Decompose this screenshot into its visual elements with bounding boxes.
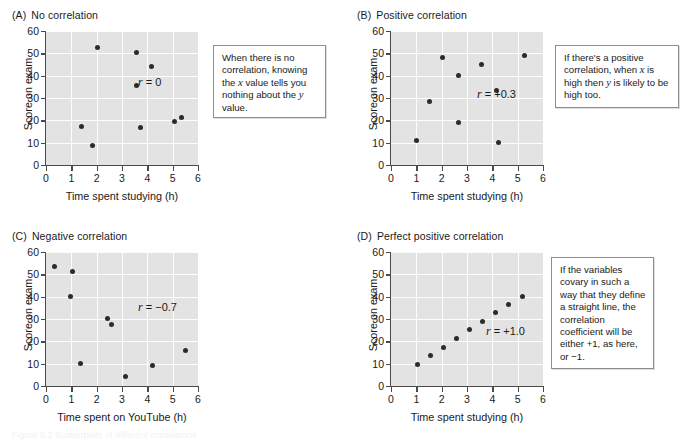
x-axis-tick: [442, 387, 443, 392]
gridline-vertical: [147, 31, 148, 165]
panel-tag-d: (D): [357, 230, 372, 242]
r-annotation-b: r = +0.3: [477, 87, 516, 102]
x-axis-tick: [391, 166, 392, 171]
data-point: [68, 294, 73, 299]
y-axis-tick-label: 20: [344, 336, 384, 347]
data-point: [440, 55, 445, 60]
x-axis-tick: [198, 387, 199, 392]
x-axis-tick-label: 4: [135, 173, 159, 184]
y-axis-tick-label: 40: [344, 292, 384, 303]
x-axis-tick: [71, 387, 72, 392]
data-point: [90, 143, 95, 148]
gridline-vertical: [173, 252, 174, 386]
x-axis-tick: [173, 166, 174, 171]
x-axis-tick: [416, 166, 417, 171]
y-axis-tick: [386, 31, 391, 32]
data-point: [183, 348, 188, 353]
x-axis-tick: [173, 387, 174, 392]
figure-caption: Figure 6.2 Scatterplots of different cor…: [12, 430, 196, 440]
gridline-vertical: [122, 252, 123, 386]
x-axis-tick-label: 6: [531, 394, 555, 405]
y-axis-tick: [386, 98, 391, 99]
gridline-vertical: [467, 31, 468, 165]
x-axis-tick-label: 2: [85, 173, 109, 184]
x-axis-tick-label: 3: [455, 173, 479, 184]
callout-d: If the variables covary in such a way th…: [551, 257, 654, 369]
data-point: [456, 120, 461, 125]
y-axis-tick-label: 0: [344, 160, 384, 171]
panel-perfect-positive-correlation: (D)Perfect positive correlation Score on…: [345, 221, 689, 442]
y-axis-tick-label: 0: [0, 160, 39, 171]
x-axis-tick: [492, 387, 493, 392]
callout-b: If there's a positive correlation, when …: [555, 45, 679, 108]
y-axis-tick: [386, 53, 391, 54]
x-axis-tick-label: 0: [34, 173, 58, 184]
panel-title-a: (A)No correlation: [12, 9, 98, 21]
y-axis-tick-label: 40: [0, 71, 39, 82]
panel-title-c: (C)Negative correlation: [12, 230, 127, 242]
x-axis-tick: [198, 166, 199, 171]
data-point: [78, 361, 83, 366]
gridline-vertical: [416, 31, 417, 165]
panel-tag-a: (A): [12, 9, 26, 21]
x-axis-tick: [467, 166, 468, 171]
data-point: [493, 310, 498, 315]
data-point: [480, 319, 485, 324]
data-point: [95, 45, 100, 50]
x-axis-tick-label: 2: [430, 394, 454, 405]
panel-title-b: (B)Positive correlation: [357, 9, 467, 21]
panel-tag-c: (C): [12, 230, 27, 242]
x-axis-tick-label: 4: [135, 394, 159, 405]
y-axis-tick: [386, 319, 391, 320]
y-axis-tick-label: 0: [344, 381, 384, 392]
x-axis-tick: [442, 166, 443, 171]
gridline-vertical: [492, 252, 493, 386]
scatter-chart-d: Score on exam Time spent studying (h) r …: [391, 252, 543, 386]
x-axis-tick: [46, 387, 47, 392]
x-axis-tick-label: 4: [480, 173, 504, 184]
x-axis-tick-label: 3: [110, 394, 134, 405]
callout-a: When there is no correlation, knowing th…: [213, 45, 326, 118]
y-axis-tick: [41, 319, 46, 320]
x-axis-tick: [147, 166, 148, 171]
y-axis-tick-label: 60: [344, 247, 384, 258]
x-axis-title-b: Time spent studying (h): [351, 190, 583, 202]
y-axis-tick: [386, 297, 391, 298]
y-axis-tick: [41, 76, 46, 77]
x-axis-tick-label: 1: [59, 173, 83, 184]
y-axis-tick: [386, 274, 391, 275]
y-axis-tick-label: 30: [344, 314, 384, 325]
data-point: [441, 345, 446, 350]
y-axis-tick-label: 10: [0, 359, 39, 370]
panel-title-d: (D)Perfect positive correlation: [357, 230, 503, 242]
data-point: [427, 99, 432, 104]
x-axis-tick-label: 0: [379, 394, 403, 405]
y-axis-tick-label: 40: [0, 292, 39, 303]
y-axis-tick: [386, 364, 391, 365]
plot-area-c: [46, 252, 198, 386]
data-point: [522, 53, 527, 58]
scatter-chart-c: Score on exam Time spent on YouTube (h) …: [46, 252, 198, 386]
x-axis-tick: [518, 387, 519, 392]
data-point: [496, 140, 501, 145]
data-point: [520, 294, 525, 299]
data-point: [109, 322, 114, 327]
y-axis-tick-label: 50: [344, 48, 384, 59]
panel-title-text-b: Positive correlation: [376, 9, 467, 21]
gridline-vertical: [97, 252, 98, 386]
x-axis-tick: [467, 387, 468, 392]
x-axis-tick: [416, 387, 417, 392]
y-axis-tick-label: 50: [344, 269, 384, 280]
gridline-vertical: [518, 31, 519, 165]
data-point: [179, 115, 184, 120]
x-axis-tick-label: 6: [186, 394, 210, 405]
panel-positive-correlation: (B)Positive correlation Score on exam Ti…: [345, 0, 689, 221]
y-axis-tick-label: 0: [0, 381, 39, 392]
y-axis-tick-label: 30: [344, 93, 384, 104]
y-axis-tick-label: 60: [344, 26, 384, 37]
gridline-vertical: [71, 31, 72, 165]
gridline-vertical: [442, 252, 443, 386]
data-point: [105, 316, 110, 321]
x-axis-tick-label: 4: [480, 394, 504, 405]
y-axis-tick-label: 60: [0, 247, 39, 258]
